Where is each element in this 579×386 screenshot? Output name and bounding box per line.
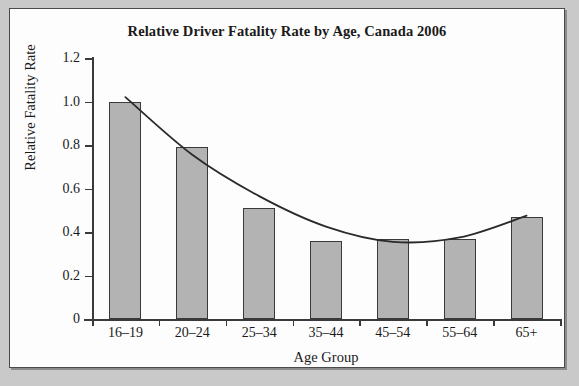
chart-title: Relative Driver Fatality Rate by Age, Ca… — [10, 23, 564, 40]
x-tick-mark — [159, 319, 161, 326]
y-tick-label: 0.2 — [63, 268, 81, 284]
y-tick-mark — [85, 189, 92, 191]
y-tick-label: 0.4 — [63, 224, 81, 240]
y-axis-label: Relative Fatality Rate — [22, 8, 39, 208]
x-axis-line — [84, 319, 562, 321]
y-tick-label: 0.8 — [63, 137, 81, 153]
y-tick-mark — [85, 145, 92, 147]
chart-figure-frame: Relative Driver Fatality Rate by Age, Ca… — [9, 8, 565, 368]
bar-age-55-64 — [444, 239, 476, 319]
x-tick-mark — [92, 319, 94, 326]
x-tick-label-age-20-24: 20–24 — [175, 325, 210, 341]
bar-age-65-plus — [511, 217, 543, 319]
x-tick-mark — [359, 319, 361, 326]
bar-age-16-19 — [109, 102, 141, 320]
y-tick-mark — [85, 232, 92, 234]
x-tick-label-age-45-54: 45–54 — [375, 325, 410, 341]
y-tick-label: 1.0 — [63, 94, 81, 110]
y-tick-mark — [85, 102, 92, 104]
y-tick-mark — [85, 276, 92, 278]
x-axis-label: Age Group — [92, 349, 560, 366]
y-tick-label: 0.6 — [63, 181, 81, 197]
bar-age-35-44 — [310, 241, 342, 319]
bar-age-20-24 — [176, 147, 208, 319]
x-tick-label-age-65-plus: 65+ — [516, 325, 538, 341]
x-tick-mark — [426, 319, 428, 326]
x-tick-mark — [560, 319, 562, 326]
y-tick-label: 0 — [73, 311, 80, 327]
y-tick-mark — [85, 319, 92, 321]
x-tick-label-age-55-64: 55–64 — [442, 325, 477, 341]
x-tick-mark — [226, 319, 228, 326]
y-tick-label: 1.2 — [63, 50, 81, 66]
x-tick-label-age-16-19: 16–19 — [108, 325, 143, 341]
plot-area — [92, 58, 560, 319]
x-tick-label-age-35-44: 35–44 — [309, 325, 344, 341]
bar-age-45-54 — [377, 239, 409, 319]
y-tick-mark — [85, 58, 92, 60]
x-tick-mark — [493, 319, 495, 326]
bar-age-25-34 — [243, 208, 275, 319]
x-tick-mark — [293, 319, 295, 326]
x-tick-label-age-25-34: 25–34 — [242, 325, 277, 341]
